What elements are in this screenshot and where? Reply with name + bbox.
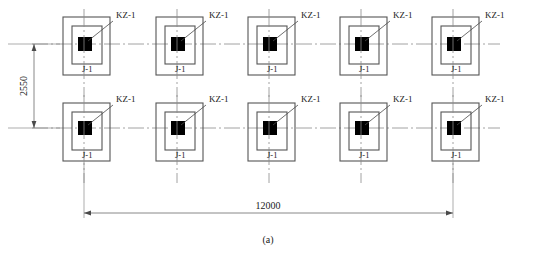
kz-label: KZ-1 (301, 10, 321, 20)
kz-label: KZ-1 (485, 10, 505, 20)
footing-label: J-1 (359, 150, 369, 160)
hdim-label: 12000 (256, 200, 281, 211)
kz-label: KZ-1 (116, 10, 136, 20)
footing-label: J-1 (267, 150, 277, 160)
footing-label: J-1 (175, 64, 185, 74)
kz-label: KZ-1 (209, 94, 229, 104)
footing-label: J-1 (82, 64, 92, 74)
footing-label: J-1 (267, 64, 277, 74)
foundation-plan-drawing: KZ-1 J-1 KZ-1 J-1 KZ-1 J-1 (0, 0, 536, 253)
kz-label: KZ-1 (485, 94, 505, 104)
footing-label: J-1 (175, 150, 185, 160)
vdim-label: 2550 (18, 76, 29, 96)
footing-label: J-1 (82, 150, 92, 160)
footing-label: J-1 (451, 64, 461, 74)
footing-label: J-1 (359, 64, 369, 74)
drawing-canvas: KZ-1 J-1 KZ-1 J-1 KZ-1 J-1 (0, 0, 536, 253)
kz-label: KZ-1 (209, 10, 229, 20)
figure-caption: (a) (262, 234, 273, 246)
kz-label: KZ-1 (393, 10, 413, 20)
kz-label: KZ-1 (301, 94, 321, 104)
footing-label: J-1 (451, 150, 461, 160)
kz-label: KZ-1 (393, 94, 413, 104)
kz-label: KZ-1 (116, 94, 136, 104)
